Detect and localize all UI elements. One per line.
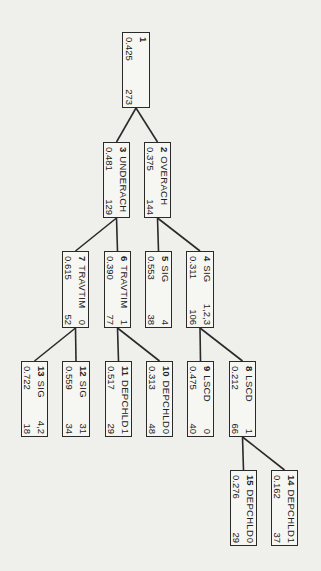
- node-split-value: 1: [286, 538, 297, 543]
- tree-node-10: 10DEPCHLD0 0.31348: [146, 361, 173, 437]
- node-count: 34: [64, 423, 75, 434]
- node-proportion: 0.475: [188, 366, 199, 390]
- node-split-variable: SIG: [78, 381, 89, 398]
- node-split-value: 0: [161, 429, 172, 434]
- tree-node-9: 9LSCD0 0.47540: [187, 361, 214, 437]
- node-count: 66: [230, 423, 241, 434]
- node-proportion: 0.425: [124, 37, 135, 61]
- node-split-value: 1: [244, 429, 255, 434]
- node-id: 1: [138, 37, 149, 42]
- node-proportion: 0.559: [64, 366, 75, 390]
- node-split-variable: DEPCHLD: [245, 490, 256, 538]
- node-count: 38: [146, 314, 157, 325]
- tree-node-8: 8LSCD1 0.21266: [229, 361, 256, 437]
- node-id: 2: [159, 147, 170, 152]
- node-id: 12: [78, 366, 89, 377]
- node-split-value: 1: [119, 320, 130, 325]
- node-id: 5: [160, 256, 171, 261]
- node-split-variable: DEPCHLD: [161, 381, 172, 429]
- node-split-variable: DEPCHLD: [120, 380, 131, 428]
- node-split-value: 0: [245, 538, 256, 543]
- tree-edge-4-9: [200, 328, 201, 361]
- tree-edge-8-14: [243, 437, 285, 470]
- node-split-value: 4: [160, 320, 171, 325]
- tree-edge-1-2: [136, 108, 158, 142]
- node-id: 6: [119, 256, 130, 261]
- tree-node-1: 1 0.425273: [122, 32, 150, 108]
- node-count: 129: [104, 199, 115, 215]
- node-split-value: 4,2: [36, 421, 47, 434]
- tree-node-12: 12SIG31 0.55934: [62, 361, 90, 437]
- tree-edge-6-10: [118, 328, 160, 361]
- tree-node-2: 2OVERACH 0.375144: [144, 142, 171, 218]
- tree-node-3: 3UNDERACH 0.481129: [103, 142, 130, 218]
- node-count: 29: [231, 532, 242, 543]
- tree-edge-7-12: [76, 328, 77, 361]
- tree-edge-3-6: [117, 218, 118, 251]
- tree-node-4: 4SIG1,2,3 0.311106: [186, 251, 214, 328]
- node-count: 144: [145, 199, 156, 215]
- node-split-value: 1,2,3: [202, 304, 213, 325]
- tree-node-7: 7TRAVTIM0 0.61552: [62, 251, 89, 328]
- node-split-variable: DEPCHLD: [286, 490, 297, 538]
- node-proportion: 0.276: [231, 475, 242, 499]
- node-count: 52: [63, 314, 74, 325]
- node-split-variable: UNDERACH: [118, 156, 129, 212]
- node-split-value: 0: [202, 429, 213, 434]
- node-count: 273: [124, 89, 135, 105]
- node-proportion: 0.390: [105, 256, 116, 280]
- node-id: 4: [202, 256, 213, 261]
- tree-node-11: 11DEPCHLD1 0.51729: [105, 361, 132, 437]
- node-proportion: 0.615: [63, 256, 74, 280]
- node-split-variable: TRAVTIM: [119, 265, 130, 308]
- tree-node-13: 13SIG4,2 0.72218: [21, 361, 48, 437]
- node-split-variable: SIG: [160, 265, 171, 282]
- node-count: 106: [188, 309, 199, 325]
- node-split-variable: OVERACH: [159, 156, 170, 205]
- tree-node-5: 5SIG4 0.55338: [145, 251, 172, 328]
- node-split-variable: SIG: [202, 265, 213, 282]
- node-proportion: 0.553: [146, 256, 157, 280]
- node-proportion: 0.212: [230, 366, 241, 390]
- node-id: 15: [245, 475, 256, 486]
- tree-edge-4-8: [200, 328, 243, 361]
- node-split-value: 0: [77, 320, 88, 325]
- node-split-value: 1: [120, 429, 131, 434]
- node-id: 9: [202, 366, 213, 371]
- tree-node-15: 15DEPCHLD0 0.27629: [230, 470, 257, 546]
- node-count: 37: [272, 532, 283, 543]
- tree-node-14: 14DEPCHLD1 0.16237: [271, 470, 298, 546]
- tree-edge-2-5: [158, 218, 159, 251]
- node-id: 11: [120, 366, 131, 376]
- node-count: 48: [147, 423, 158, 434]
- node-proportion: 0.313: [147, 366, 158, 390]
- node-count: 40: [188, 423, 199, 434]
- node-split-variable: LSCD: [244, 375, 255, 402]
- node-proportion: 0.162: [272, 475, 283, 499]
- node-proportion: 0.517: [106, 366, 117, 390]
- tree-edge-7-13: [35, 328, 76, 361]
- node-id: 7: [77, 256, 88, 261]
- node-split-value: 31: [78, 423, 89, 434]
- tree-edge-3-7: [76, 218, 117, 251]
- node-split-variable: SIG: [36, 381, 47, 398]
- tree-edge-1-3: [117, 108, 137, 142]
- node-id: 10: [161, 366, 172, 377]
- node-split-variable: TRAVTIM: [77, 265, 88, 308]
- tree-edge-8-15: [243, 437, 244, 470]
- node-count: 29: [106, 423, 117, 434]
- node-id: 13: [36, 366, 47, 377]
- node-proportion: 0.481: [104, 147, 115, 171]
- node-id: 3: [118, 147, 129, 152]
- node-proportion: 0.375: [145, 147, 156, 171]
- decision-tree-diagram: 1 0.425273 3UNDERACH 0.481129 2OVERACH 0…: [0, 0, 321, 571]
- node-count: 18: [22, 423, 33, 434]
- node-proportion: 0.311: [188, 256, 199, 279]
- tree-edge-2-4: [158, 218, 201, 251]
- node-id: 8: [244, 366, 255, 371]
- node-count: 77: [105, 314, 116, 325]
- tree-node-6: 6TRAVTIM1 0.39077: [104, 251, 131, 328]
- node-id: 14: [286, 475, 297, 486]
- tree-edge-6-11: [118, 328, 119, 361]
- node-proportion: 0.722: [22, 366, 33, 390]
